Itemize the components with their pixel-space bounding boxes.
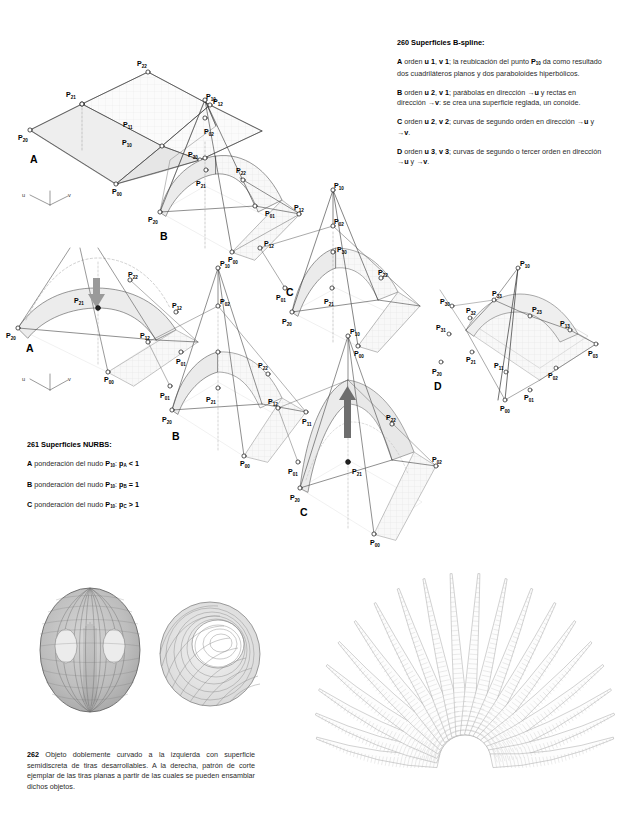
- label-P12: P12: [140, 332, 150, 341]
- control-point-P21[interactable]: [346, 460, 351, 465]
- figure-letter-nurbs-a: A: [26, 342, 34, 354]
- label-P31: P31: [436, 324, 446, 333]
- doubly-curved-object: [40, 588, 140, 712]
- control-point-P30[interactable]: [203, 156, 207, 160]
- control-point-P01[interactable]: [179, 350, 183, 354]
- control-point-P22[interactable]: [241, 178, 245, 182]
- control-point-P21[interactable]: [204, 168, 208, 172]
- control-point-P02[interactable]: [203, 116, 207, 120]
- control-point-P00[interactable]: [230, 250, 234, 254]
- control-point-P20[interactable]: [170, 408, 174, 412]
- label-P21: P21: [466, 356, 476, 365]
- control-point-P11[interactable]: [253, 204, 257, 208]
- control-point-P00[interactable]: [242, 454, 246, 458]
- control-point-P30[interactable]: [450, 304, 454, 308]
- figure-letter-nurbs-c: C: [300, 506, 308, 518]
- figure-bspline-d: P10 P33 P32 P23 P13 P31 P21 P11 P03 P02 …: [432, 260, 598, 414]
- control-point-P20[interactable]: [290, 310, 294, 314]
- control-point-P21[interactable]: [470, 350, 474, 354]
- control-point-P11[interactable]: [304, 410, 308, 414]
- figure-262-cutting-pattern: [330, 556, 600, 746]
- control-point-P20[interactable]: [298, 486, 302, 490]
- figure-letter-bspline-b: B: [160, 230, 168, 242]
- control-point-P31[interactable]: [447, 332, 451, 336]
- label-P00: P00: [500, 405, 510, 414]
- control-point-P00[interactable]: [114, 182, 118, 186]
- control-point-P10[interactable]: [80, 102, 84, 106]
- control-point-P20[interactable]: [28, 128, 32, 132]
- label-P01: P01: [160, 392, 170, 401]
- figure-letter-bspline-a: A: [30, 153, 38, 165]
- axis-label-v-middle: v: [68, 376, 71, 382]
- control-point-P11[interactable]: [504, 370, 508, 374]
- label-P00: P00: [240, 460, 250, 469]
- label-P01: P01: [176, 358, 186, 367]
- figure-nurbs-a: P21 P22 P12 P20 P01 P00 A: [6, 248, 198, 386]
- control-point-P00[interactable]: [106, 370, 110, 374]
- control-point-P12[interactable]: [208, 103, 212, 107]
- caption-262-block: 262 Objeto doblemente curvado a la izqui…: [27, 750, 255, 792]
- label-P21: P21: [196, 180, 206, 189]
- figure-nurbs-c: P10 P12 P01 P21 P22 P02 P20 P00 C: [268, 328, 442, 548]
- strip-mesh-object: [160, 602, 260, 706]
- figure-bspline-a: P22 P21 P12 P10 P11 P20 P01 P00 A: [18, 60, 262, 197]
- control-point-P30[interactable]: [216, 350, 220, 354]
- label-P01: P01: [524, 394, 534, 403]
- label-P10: P10: [334, 182, 344, 191]
- caption-262-text: Objeto doblemente curvado a la izquierda…: [27, 750, 255, 791]
- control-point-P00[interactable]: [372, 532, 376, 536]
- axis-label-u-top: u: [22, 192, 25, 198]
- label-P11: P11: [494, 362, 504, 371]
- control-point-P01[interactable]: [168, 384, 172, 388]
- label-P20: P20: [6, 332, 16, 341]
- control-point-P33[interactable]: [492, 298, 496, 302]
- control-point-P21[interactable]: [96, 306, 101, 311]
- control-point-P20[interactable]: [158, 210, 162, 214]
- label-P21: P21: [206, 396, 216, 405]
- control-point-P22[interactable]: [266, 372, 270, 376]
- control-point-P30[interactable]: [331, 250, 335, 254]
- label-P22: P22: [137, 60, 147, 69]
- label-P30: P30: [440, 298, 450, 307]
- label-P10: P10: [206, 93, 216, 102]
- label-P12: P12: [172, 302, 182, 311]
- label-P00: P00: [112, 188, 122, 197]
- control-point-P20[interactable]: [16, 326, 20, 330]
- surface-diagrams-group: P22 P21 P12 P10 P11 P20 P01 P00 A u v: [0, 0, 620, 560]
- diagrams-svg: P22 P21 P12 P10 P11 P20 P01 P00 A u v: [0, 0, 620, 560]
- label-P01: P01: [276, 294, 286, 303]
- control-point-P32[interactable]: [468, 316, 472, 320]
- control-point-P03[interactable]: [594, 342, 598, 346]
- control-point-P22[interactable]: [128, 278, 132, 282]
- control-point-P01[interactable]: [528, 388, 532, 392]
- control-point-P11[interactable]: [160, 144, 164, 148]
- label-P21: P21: [324, 298, 334, 307]
- label-P20: P20: [18, 134, 28, 143]
- control-point-P20[interactable]: [439, 360, 443, 364]
- caption-262-number: 262: [27, 750, 39, 759]
- figure-262-objects: [28, 562, 278, 737]
- control-point-P02[interactable]: [554, 366, 558, 370]
- control-point-P21[interactable]: [330, 286, 334, 290]
- axis-triad-top: u v: [22, 191, 71, 205]
- caption-262-paragraph: 262 Objeto doblemente curvado a la izqui…: [27, 750, 255, 792]
- label-P03: P03: [588, 350, 598, 359]
- label-P32: P32: [466, 307, 476, 316]
- label-P20: P20: [432, 368, 442, 377]
- label-P20: P20: [282, 318, 292, 327]
- control-point-P01[interactable]: [296, 460, 300, 464]
- figure-letter-bspline-c: C: [286, 286, 294, 298]
- label-P02: P02: [548, 372, 558, 381]
- control-point-P12[interactable]: [258, 246, 262, 250]
- control-point-P00[interactable]: [356, 344, 360, 348]
- pattern-svg: [330, 556, 600, 746]
- control-point-P23[interactable]: [528, 314, 532, 318]
- figure-letter-nurbs-b: B: [172, 430, 180, 442]
- label-P20: P20: [162, 416, 172, 425]
- control-point-P22[interactable]: [146, 70, 150, 74]
- label-P10: P10: [520, 260, 530, 269]
- label-P00: P00: [370, 539, 380, 548]
- control-point-P21[interactable]: [216, 386, 220, 390]
- control-point-P00[interactable]: [503, 398, 507, 402]
- label-P02: P02: [220, 298, 230, 307]
